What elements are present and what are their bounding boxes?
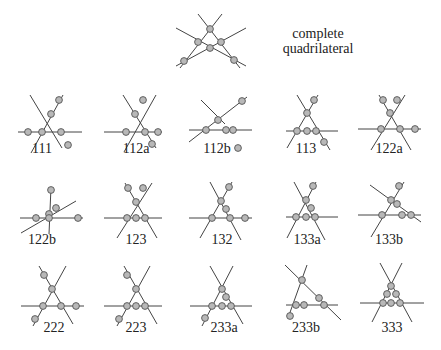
figure-label-123: 123: [126, 233, 147, 247]
node-icon: [408, 212, 415, 219]
node-icon: [303, 214, 310, 221]
figure-label-333: 333: [382, 321, 403, 335]
node-icon: [235, 145, 242, 152]
node-icon: [228, 303, 235, 310]
node-icon: [116, 316, 123, 323]
node-icon: [312, 214, 319, 221]
node-icon: [140, 97, 147, 104]
node-icon: [304, 128, 311, 135]
node-icon: [388, 300, 395, 307]
node-icon: [303, 197, 310, 204]
node-icon: [219, 286, 226, 293]
node-icon: [379, 212, 386, 219]
figure-label-222: 222: [44, 321, 65, 335]
node-icon: [218, 39, 225, 46]
node-icon: [207, 26, 214, 33]
node-icon: [133, 199, 140, 206]
node-icon: [394, 97, 401, 104]
node-icon: [142, 303, 149, 310]
figure-133b: [358, 182, 421, 237]
node-icon: [226, 184, 233, 191]
node-icon: [123, 129, 130, 136]
figure-223: [104, 266, 162, 326]
node-icon: [396, 183, 403, 190]
node-icon: [209, 303, 216, 310]
line: [371, 182, 404, 237]
figure-label-122a: 122a: [375, 142, 402, 156]
node-icon: [39, 129, 46, 136]
figure-label-223: 223: [126, 321, 147, 335]
figure-label-233a: 233a: [210, 321, 237, 335]
node-icon: [48, 111, 55, 118]
node-icon: [293, 302, 300, 309]
figure-label-233b: 233b: [292, 321, 320, 335]
node-icon: [133, 303, 140, 310]
node-icon: [308, 205, 315, 212]
figure-complete-quadrilateral: [176, 14, 246, 68]
figure-label-122b: 122b: [28, 233, 56, 247]
node-icon: [387, 110, 394, 117]
node-icon: [49, 286, 56, 293]
node-icon: [202, 315, 209, 322]
node-icon: [287, 313, 294, 320]
node-icon: [219, 303, 226, 310]
title-line-2: quadrilateral: [268, 41, 368, 56]
node-icon: [142, 215, 149, 222]
node-icon: [230, 127, 237, 134]
node-icon: [223, 294, 230, 301]
node-icon: [65, 142, 72, 149]
figure-233b: [285, 265, 341, 320]
node-icon: [181, 58, 188, 65]
node-icon: [378, 126, 385, 133]
complete-quadrilateral-title: complete quadrilateral: [268, 26, 368, 56]
node-icon: [125, 185, 132, 192]
node-icon: [133, 215, 140, 222]
node-icon: [311, 97, 318, 104]
node-icon: [75, 215, 82, 222]
node-icon: [53, 205, 60, 212]
node-icon: [207, 45, 214, 52]
node-icon: [25, 129, 32, 136]
node-icon: [132, 111, 139, 118]
line: [285, 265, 341, 320]
node-icon: [412, 126, 419, 133]
node-icon: [301, 302, 308, 309]
node-icon: [73, 303, 80, 310]
node-icon: [223, 206, 230, 213]
node-icon: [321, 302, 328, 309]
diagram-canvas: [0, 0, 441, 350]
node-icon: [124, 272, 131, 279]
node-icon: [397, 300, 404, 307]
node-icon: [209, 215, 216, 222]
node-icon: [299, 277, 306, 284]
node-icon: [33, 215, 40, 222]
node-icon: [384, 291, 391, 298]
node-icon: [393, 291, 400, 298]
node-icon: [388, 283, 395, 290]
line: [117, 183, 152, 238]
node-icon: [48, 187, 55, 194]
node-icon: [40, 303, 47, 310]
node-icon: [316, 295, 323, 302]
node-icon: [58, 129, 65, 136]
node-icon: [142, 129, 149, 136]
node-icon: [32, 316, 39, 323]
node-icon: [294, 128, 301, 135]
figure-122b: [20, 187, 83, 234]
figure-123: [104, 183, 162, 238]
figure-222: [21, 266, 84, 326]
node-icon: [399, 212, 406, 219]
figure-label-133a: 133a: [293, 233, 320, 247]
node-icon: [46, 215, 53, 222]
node-icon: [313, 128, 320, 135]
node-icon: [155, 129, 162, 136]
figure-label-133b: 133b: [375, 233, 403, 247]
node-icon: [56, 97, 63, 104]
title-line-1: complete: [268, 26, 368, 41]
figure-333: [360, 263, 424, 322]
figure-233a: [190, 266, 252, 326]
node-icon: [215, 117, 222, 124]
node-icon: [124, 303, 131, 310]
node-icon: [394, 201, 401, 208]
figure-label-111: 111: [32, 142, 52, 156]
